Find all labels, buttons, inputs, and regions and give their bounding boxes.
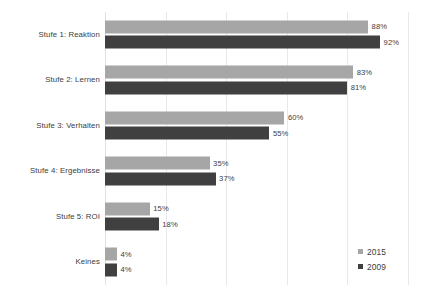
category-label: Stufe 2: Lernen <box>0 75 100 85</box>
category-label: Keines <box>0 257 100 267</box>
bar-value-2009: 55% <box>273 129 289 138</box>
bar-line-2015: 83% <box>105 66 432 79</box>
bar-2015[interactable] <box>105 20 368 33</box>
legend-item-2015[interactable]: 2015 <box>358 244 386 259</box>
legend-swatch-icon-2009 <box>358 264 363 269</box>
bar-2015[interactable] <box>105 157 210 170</box>
bar-group: 88% 92% <box>105 20 432 49</box>
bar-2009[interactable] <box>105 81 347 94</box>
bar-line-2015: 60% <box>105 111 432 124</box>
chart-category-row: Stufe 4: Ergebnisse 35% 37% <box>0 149 432 195</box>
bar-line-2015: 15% <box>105 202 432 215</box>
bar-value-2009: 4% <box>121 265 132 274</box>
bar-2015[interactable] <box>105 66 353 79</box>
bar-line-2015: 88% <box>105 20 432 33</box>
chart-category-row: Stufe 3: Verhalten 60% 55% <box>0 103 432 149</box>
bar-2009[interactable] <box>105 36 380 49</box>
bar-group: 35% 37% <box>105 157 432 186</box>
bar-value-2015: 60% <box>288 113 304 122</box>
category-label: Stufe 1: Reaktion <box>0 30 100 40</box>
bar-2009[interactable] <box>105 263 117 276</box>
bar-2009[interactable] <box>105 172 216 185</box>
bar-line-2009: 55% <box>105 127 432 140</box>
legend-label-2009: 2009 <box>367 262 386 272</box>
chart-category-row: Stufe 2: Lernen 83% 81% <box>0 58 432 104</box>
bar-value-2009: 81% <box>351 83 367 92</box>
bar-2009[interactable] <box>105 218 159 231</box>
bar-2015[interactable] <box>105 111 284 124</box>
bar-2015[interactable] <box>105 248 117 261</box>
bar-line-2009: 37% <box>105 172 432 185</box>
bar-value-2015: 15% <box>153 204 169 213</box>
legend-item-2009[interactable]: 2009 <box>358 259 386 274</box>
bar-value-2009: 18% <box>162 220 178 229</box>
legend-label-2015: 2015 <box>367 247 386 257</box>
bar-value-2009: 37% <box>219 174 235 183</box>
bar-line-2009: 92% <box>105 36 432 49</box>
chart-category-row: Stufe 1: Reaktion 88% 92% <box>0 12 432 58</box>
bar-group: 60% 55% <box>105 111 432 140</box>
chart-category-row: Stufe 5: ROI 15% 18% <box>0 194 432 240</box>
chart-legend: 2015 2009 <box>358 244 386 274</box>
bar-value-2015: 4% <box>121 250 132 259</box>
category-label: Stufe 5: ROI <box>0 212 100 222</box>
bar-line-2015: 35% <box>105 157 432 170</box>
bar-2009[interactable] <box>105 127 269 140</box>
category-label: Stufe 3: Verhalten <box>0 121 100 131</box>
bar-group: 83% 81% <box>105 66 432 95</box>
bar-2015[interactable] <box>105 202 150 215</box>
bar-group: 15% 18% <box>105 202 432 231</box>
bar-value-2015: 88% <box>372 22 388 31</box>
bar-value-2015: 35% <box>213 159 229 168</box>
bar-line-2009: 81% <box>105 81 432 94</box>
bar-chart: Stufe 1: Reaktion 88% 92% Stufe 2: Lerne… <box>0 0 432 295</box>
bar-value-2009: 92% <box>384 38 400 47</box>
bar-line-2009: 18% <box>105 218 432 231</box>
legend-swatch-icon-2015 <box>358 249 363 254</box>
bar-value-2015: 83% <box>357 68 373 77</box>
category-label: Stufe 4: Ergebnisse <box>0 166 100 176</box>
